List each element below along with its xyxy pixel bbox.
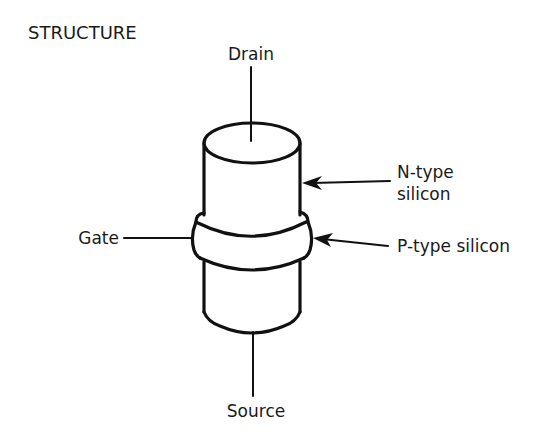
lower-n-type-cylinder: [204, 262, 300, 333]
n-type-arrow: [302, 176, 390, 190]
source-label: Source: [227, 401, 285, 421]
transistor-structure-diagram: STRUCTURE Drain Source Gate N-type sili: [0, 0, 556, 445]
n-type-label-line1: N-type: [397, 162, 454, 182]
drain-label: Drain: [228, 44, 274, 64]
diagram-title: STRUCTURE: [28, 22, 137, 43]
gate-label: Gate: [78, 228, 119, 248]
p-type-arrow: [313, 233, 388, 247]
n-type-label-line2: silicon: [397, 184, 451, 204]
p-type-label: P-type silicon: [397, 236, 510, 256]
p-type-gate-band: [192, 212, 311, 270]
